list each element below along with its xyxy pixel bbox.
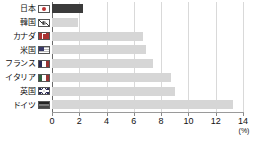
- flag-france-icon: [38, 60, 50, 68]
- bar-canada: [52, 32, 143, 41]
- flag-canada-icon: [38, 32, 50, 40]
- category-row: 日本: [20, 2, 50, 16]
- category-label: カナダ: [13, 32, 36, 41]
- flag-united-states-icon: [38, 46, 50, 54]
- category-row: 英国: [20, 85, 50, 99]
- bar-row: [52, 2, 243, 16]
- category-label: フランス: [5, 59, 36, 68]
- x-axis: 0 2 4 6 8 10 12 14 (%): [0, 113, 258, 127]
- bar-japan: [52, 4, 83, 13]
- category-label: 韓国: [20, 18, 36, 27]
- x-tick-label: 12: [211, 116, 221, 127]
- plot-area: [52, 2, 243, 112]
- gridline-14: [243, 2, 244, 112]
- bar-row: [52, 43, 243, 57]
- category-row: 米国: [20, 43, 50, 57]
- flag-germany-icon: [38, 101, 50, 109]
- bar-row: [52, 98, 243, 112]
- bar-united-kingdom: [52, 87, 175, 96]
- bar-france: [52, 59, 153, 68]
- category-row: 韓国: [20, 16, 50, 30]
- category-row: ドイツ: [13, 98, 50, 112]
- category-row: フランス: [5, 57, 50, 71]
- x-tick-label: 0: [49, 116, 54, 127]
- flag-italy-icon: [38, 74, 50, 82]
- bar-south-korea: [52, 18, 78, 27]
- x-tick-label: 10: [183, 116, 193, 127]
- x-tick-label: 2: [77, 116, 82, 127]
- bar-row: [52, 57, 243, 71]
- category-label: イタリア: [5, 73, 36, 82]
- x-axis-unit-label: (%): [239, 127, 250, 135]
- category-axis: 日本 韓国 カナダ 米国 フランス イタリア 英国 ドイツ: [0, 2, 52, 112]
- x-tick-label: 14: [238, 116, 248, 127]
- category-label: 日本: [20, 4, 36, 13]
- bar-italy: [52, 73, 171, 82]
- bar-row: [52, 30, 243, 44]
- bar-united-states: [52, 45, 146, 54]
- bar-row: [52, 71, 243, 85]
- flag-united-kingdom-icon: [38, 87, 50, 95]
- category-label: 米国: [20, 46, 36, 55]
- bar-row: [52, 85, 243, 99]
- category-row: カナダ: [13, 30, 50, 44]
- category-row: イタリア: [5, 71, 50, 85]
- category-label: ドイツ: [13, 101, 36, 110]
- x-tick-label: 6: [131, 116, 136, 127]
- category-label: 英国: [20, 87, 36, 96]
- bar-chart: 日本 韓国 カナダ 米国 フランス イタリア 英国 ドイツ: [0, 0, 258, 141]
- flag-japan-icon: [38, 5, 50, 13]
- bars: [52, 2, 243, 112]
- bar-row: [52, 16, 243, 30]
- x-tick-label: 4: [104, 116, 109, 127]
- bar-germany: [52, 100, 233, 109]
- flag-south-korea-icon: [38, 19, 50, 27]
- x-tick-label: 8: [159, 116, 164, 127]
